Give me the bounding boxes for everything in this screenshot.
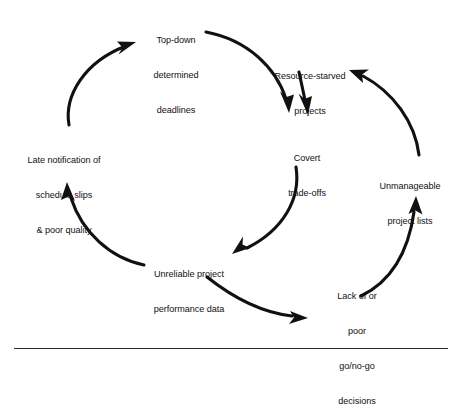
node-line: decisions [318,396,396,408]
edge-resource-to-covert [299,72,313,115]
edge-late-to-topdown [68,42,136,126]
edge-covert-to-unreliable [232,167,297,254]
edge-unmanageable-to-resource [349,70,419,156]
node-line: go/no-go [318,361,396,373]
edge-lack-to-unmanageable [361,196,423,296]
footer-divider [14,348,448,349]
edge-topdown-to-covert [206,32,294,113]
edge-unreliable-to-late [61,182,144,265]
edge-unreliable-to-lack [207,277,308,324]
